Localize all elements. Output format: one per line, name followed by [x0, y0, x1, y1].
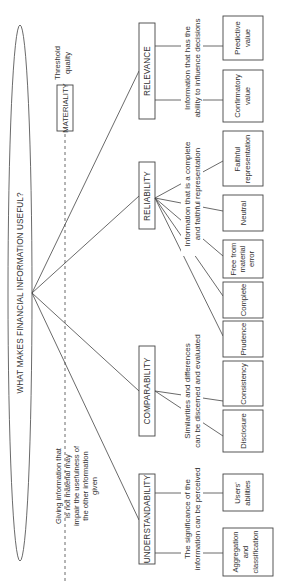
- threshold-label: Threshold quality: [53, 46, 72, 80]
- connector-reliability: [32, 196, 139, 293]
- svg-text:Aggregation: Aggregation: [231, 532, 240, 573]
- svg-text:Disclosure: Disclosure: [239, 413, 248, 448]
- child-neutral: Neutral: [223, 195, 263, 231]
- diagram-canvas: WHAT MAKES FINANCIAL INFORMATION USEFUL?…: [0, 0, 284, 586]
- svg-text:Faithful: Faithful: [233, 146, 242, 171]
- svg-text:quality: quality: [63, 52, 72, 74]
- svg-text:and faithful representation: and faithful representation: [193, 148, 202, 241]
- svg-text:the other information: the other information: [81, 451, 90, 521]
- svg-text:Confirmatory: Confirmatory: [233, 74, 242, 118]
- svg-text:Complete: Complete: [239, 284, 248, 317]
- svg-text:can be discerned and evaluated: can be discerned and evaluated: [193, 334, 202, 447]
- svg-text:information can be perceived: information can be perceived: [193, 468, 202, 571]
- child-aggregation-classification: Aggregation and classification: [223, 528, 273, 576]
- child-confirmatory-value: Confirmatory value: [223, 70, 263, 122]
- svg-text:and: and: [241, 546, 250, 559]
- quality-understandability: UNDERSTANDABILITY The significance of th…: [139, 462, 273, 576]
- svg-text:Consistency: Consistency: [239, 363, 248, 405]
- svg-text:Neutral: Neutral: [239, 200, 248, 225]
- svg-text:Information that is a complete: Information that is a complete: [183, 141, 192, 246]
- svg-text:material: material: [238, 245, 247, 272]
- child-consistency: Consistency: [223, 361, 263, 406]
- materiality-label: MATERIALITY: [61, 83, 70, 132]
- svg-text:value: value: [243, 87, 252, 105]
- child-faithful-representation: Faithful representation: [223, 131, 263, 186]
- svg-text:RELIABILITY: RELIABILITY: [143, 171, 152, 221]
- connector-relevance: [32, 71, 139, 293]
- svg-text:COMPARABILITY: COMPARABILITY: [143, 357, 152, 425]
- svg-text:classification: classification: [251, 530, 260, 573]
- svg-text:ability to influence decisions: ability to influence decisions: [193, 18, 202, 117]
- svg-text:abilities: abilities: [243, 480, 252, 506]
- root-node: WHAT MAKES FINANCIAL INFORMATION USEFUL?: [8, 25, 32, 561]
- svg-text:Predictive: Predictive: [233, 21, 242, 54]
- materiality-box: MATERIALITY: [57, 83, 73, 132]
- svg-text:is not material may: is not material may: [63, 454, 72, 518]
- materiality-note: Giving information that is not material …: [54, 445, 99, 526]
- svg-text:Information that has the: Information that has the: [183, 25, 192, 110]
- child-free-from-material-error: Free from material error: [223, 240, 263, 278]
- root-title: WHAT MAKES FINANCIAL INFORMATION USEFUL?: [16, 192, 25, 393]
- svg-text:Similarities and differences: Similarities and differences: [183, 343, 192, 438]
- svg-text:Threshold: Threshold: [53, 46, 62, 80]
- svg-text:The significance of the: The significance of the: [183, 478, 192, 559]
- svg-text:UNDERSTANDABILITY: UNDERSTANDABILITY: [143, 474, 152, 563]
- svg-text:error: error: [247, 251, 256, 268]
- quality-reliability: RELIABILITY Information that is a comple…: [139, 131, 263, 357]
- svg-text:Prudence: Prudence: [239, 323, 248, 356]
- svg-text:representation: representation: [243, 135, 252, 184]
- svg-text:RELEVANCE: RELEVANCE: [143, 46, 152, 96]
- svg-text:Free from: Free from: [229, 243, 238, 276]
- svg-text:given: given: [90, 477, 99, 495]
- child-complete: Complete: [223, 282, 263, 318]
- child-users-abilities: Users' abilities: [223, 474, 263, 511]
- svg-text:Users': Users': [233, 482, 242, 504]
- svg-text:impair the usefulness of: impair the usefulness of: [72, 445, 81, 526]
- svg-text:value: value: [243, 29, 252, 47]
- quality-relevance: RELEVANCE Information that has the abili…: [139, 12, 263, 124]
- child-prudence: Prudence: [223, 321, 263, 357]
- svg-text:Giving information that: Giving information that: [54, 447, 63, 524]
- child-disclosure: Disclosure: [223, 410, 263, 452]
- connector-comparability: [32, 293, 139, 391]
- child-predictive-value: Predictive value: [223, 16, 263, 60]
